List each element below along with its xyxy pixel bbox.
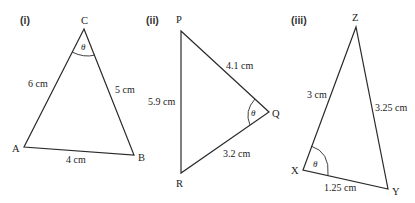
vertex-c: C xyxy=(81,15,88,26)
vertex-x: X xyxy=(291,165,299,176)
vertex-r: R xyxy=(176,178,183,189)
triangle-ii: (ii) θ P Q R 4.1 cm 5.9 cm 3.2 cm xyxy=(146,14,280,189)
angle-theta-x: θ xyxy=(313,159,318,169)
side-pq-length: 4.1 cm xyxy=(226,60,253,71)
triangle-iii: (iii) θ Z X Y 3 cm 3.25 cm 1.25 cm xyxy=(291,12,407,197)
side-pr-length: 5.9 cm xyxy=(148,96,175,107)
side-ab-length: 4 cm xyxy=(66,154,86,165)
side-cb-length: 5 cm xyxy=(115,84,135,95)
vertex-y: Y xyxy=(392,186,400,197)
side-qr-length: 3.2 cm xyxy=(223,148,250,159)
vertex-z: Z xyxy=(352,12,358,23)
side-yz-length: 3.25 cm xyxy=(375,102,407,113)
diagram-label-ii: (ii) xyxy=(146,14,159,26)
side-xz-length: 3 cm xyxy=(307,89,327,100)
vertex-a: A xyxy=(12,143,20,154)
diagram-label-i: (i) xyxy=(20,14,30,26)
side-xy-length: 1.25 cm xyxy=(324,182,356,193)
vertex-b: B xyxy=(138,152,145,163)
diagram-label-iii: (iii) xyxy=(291,14,307,26)
triangle-i: (i) θ C A B 6 cm 5 cm 4 cm xyxy=(12,14,145,165)
vertex-p: P xyxy=(176,14,182,25)
angle-theta-q: θ xyxy=(251,108,256,118)
angle-theta-c: θ xyxy=(81,42,86,52)
side-ca-length: 6 cm xyxy=(28,78,48,89)
vertex-q: Q xyxy=(272,108,280,119)
angle-arc-c xyxy=(72,52,95,56)
